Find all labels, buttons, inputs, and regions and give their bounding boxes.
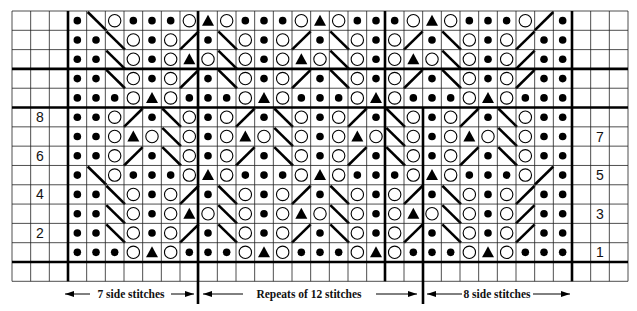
- triangle-icon: [202, 169, 214, 180]
- dot-icon: [92, 210, 100, 218]
- row-number-label: 6: [36, 148, 44, 164]
- open-circle-icon: [127, 246, 139, 258]
- dot-icon: [559, 171, 567, 179]
- open-circle-icon: [239, 227, 251, 239]
- dot-icon: [148, 171, 156, 179]
- dot-icon: [316, 94, 324, 102]
- dot-icon: [204, 75, 212, 83]
- left-slant-icon: [386, 147, 405, 165]
- open-circle-icon: [388, 246, 400, 258]
- left-slant-icon: [498, 147, 517, 165]
- dot-icon: [372, 75, 380, 83]
- triangle-icon: [426, 15, 438, 26]
- open-circle-icon: [519, 169, 531, 181]
- dot-icon: [447, 249, 455, 257]
- open-circle-icon: [164, 246, 176, 258]
- dot-icon: [428, 133, 436, 141]
- triangle-icon: [239, 131, 251, 142]
- dot-icon: [466, 17, 474, 25]
- open-circle-icon: [463, 34, 475, 46]
- dot-icon: [484, 229, 492, 237]
- dot-icon: [316, 191, 324, 199]
- open-circle-icon: [519, 111, 531, 123]
- left-slant-icon: [498, 109, 517, 127]
- left-slant-icon: [218, 224, 237, 242]
- open-circle-icon: [332, 169, 344, 181]
- open-circle-icon: [500, 227, 512, 239]
- open-circle-icon: [127, 34, 139, 46]
- dot-icon: [372, 17, 380, 25]
- row-number-label: 1: [596, 244, 604, 260]
- right-slant-icon: [404, 70, 423, 88]
- dot-icon: [204, 191, 212, 199]
- dot-icon: [148, 36, 156, 44]
- open-circle-icon: [519, 130, 531, 142]
- right-slant-icon: [516, 224, 535, 242]
- dot-icon: [372, 55, 380, 63]
- triangle-icon: [183, 208, 195, 219]
- right-slant-icon: [516, 31, 535, 49]
- dot-icon: [92, 229, 100, 237]
- left-slant-icon: [218, 205, 237, 223]
- dot-icon: [428, 249, 436, 257]
- triangle-icon: [183, 53, 195, 64]
- caption-left-side: 7 side stitches: [97, 288, 165, 300]
- dot-icon: [74, 171, 82, 179]
- dot-icon: [559, 75, 567, 83]
- dot-icon: [540, 75, 548, 83]
- left-slant-icon: [330, 186, 349, 204]
- dot-icon: [372, 171, 380, 179]
- dot-icon: [260, 55, 268, 63]
- dot-icon: [503, 171, 511, 179]
- left-slant-icon: [330, 224, 349, 242]
- open-circle-icon: [108, 14, 120, 26]
- dot-icon: [74, 249, 82, 257]
- dot-icon: [540, 94, 548, 102]
- dot-icon: [148, 17, 156, 25]
- dot-icon: [354, 17, 362, 25]
- open-circle-icon: [276, 53, 288, 65]
- dot-icon: [260, 75, 268, 83]
- dot-icon: [186, 94, 194, 102]
- open-circle-icon: [220, 150, 232, 162]
- open-circle-icon: [332, 111, 344, 123]
- open-circle-icon: [388, 227, 400, 239]
- stitch-captions: 7 side stitches Repeats of 12 stitches 8…: [97, 288, 531, 301]
- open-circle-icon: [295, 130, 307, 142]
- left-slant-icon: [498, 128, 517, 146]
- open-circle-icon: [407, 14, 419, 26]
- open-circle-icon: [388, 208, 400, 220]
- dot-icon: [204, 113, 212, 121]
- open-circle-icon: [220, 14, 232, 26]
- right-slant-icon: [348, 147, 367, 165]
- dot-icon: [540, 133, 548, 141]
- open-circle-icon: [183, 130, 195, 142]
- dot-icon: [484, 75, 492, 83]
- dot-icon: [484, 55, 492, 63]
- open-circle-icon: [500, 72, 512, 84]
- row-number-label: 5: [596, 167, 604, 183]
- dot-icon: [559, 113, 567, 121]
- right-slant-icon: [535, 166, 554, 184]
- left-slant-icon: [386, 109, 405, 127]
- left-slant-icon: [330, 31, 349, 49]
- left-slant-icon: [442, 186, 461, 204]
- dot-icon: [540, 36, 548, 44]
- dot-icon: [559, 55, 567, 63]
- dot-icon: [148, 75, 156, 83]
- dot-icon: [260, 229, 268, 237]
- dot-icon: [298, 94, 306, 102]
- open-circle-icon: [127, 208, 139, 220]
- dot-icon: [260, 152, 268, 160]
- open-circle-icon: [220, 169, 232, 181]
- dot-icon: [74, 75, 82, 83]
- dot-icon: [186, 249, 194, 257]
- dot-icon: [316, 36, 324, 44]
- dot-icon: [540, 210, 548, 218]
- dot-icon: [540, 191, 548, 199]
- open-circle-icon: [239, 246, 251, 258]
- open-circle-icon: [276, 72, 288, 84]
- dot-icon: [559, 210, 567, 218]
- dot-icon: [92, 36, 100, 44]
- triangle-icon: [351, 131, 363, 142]
